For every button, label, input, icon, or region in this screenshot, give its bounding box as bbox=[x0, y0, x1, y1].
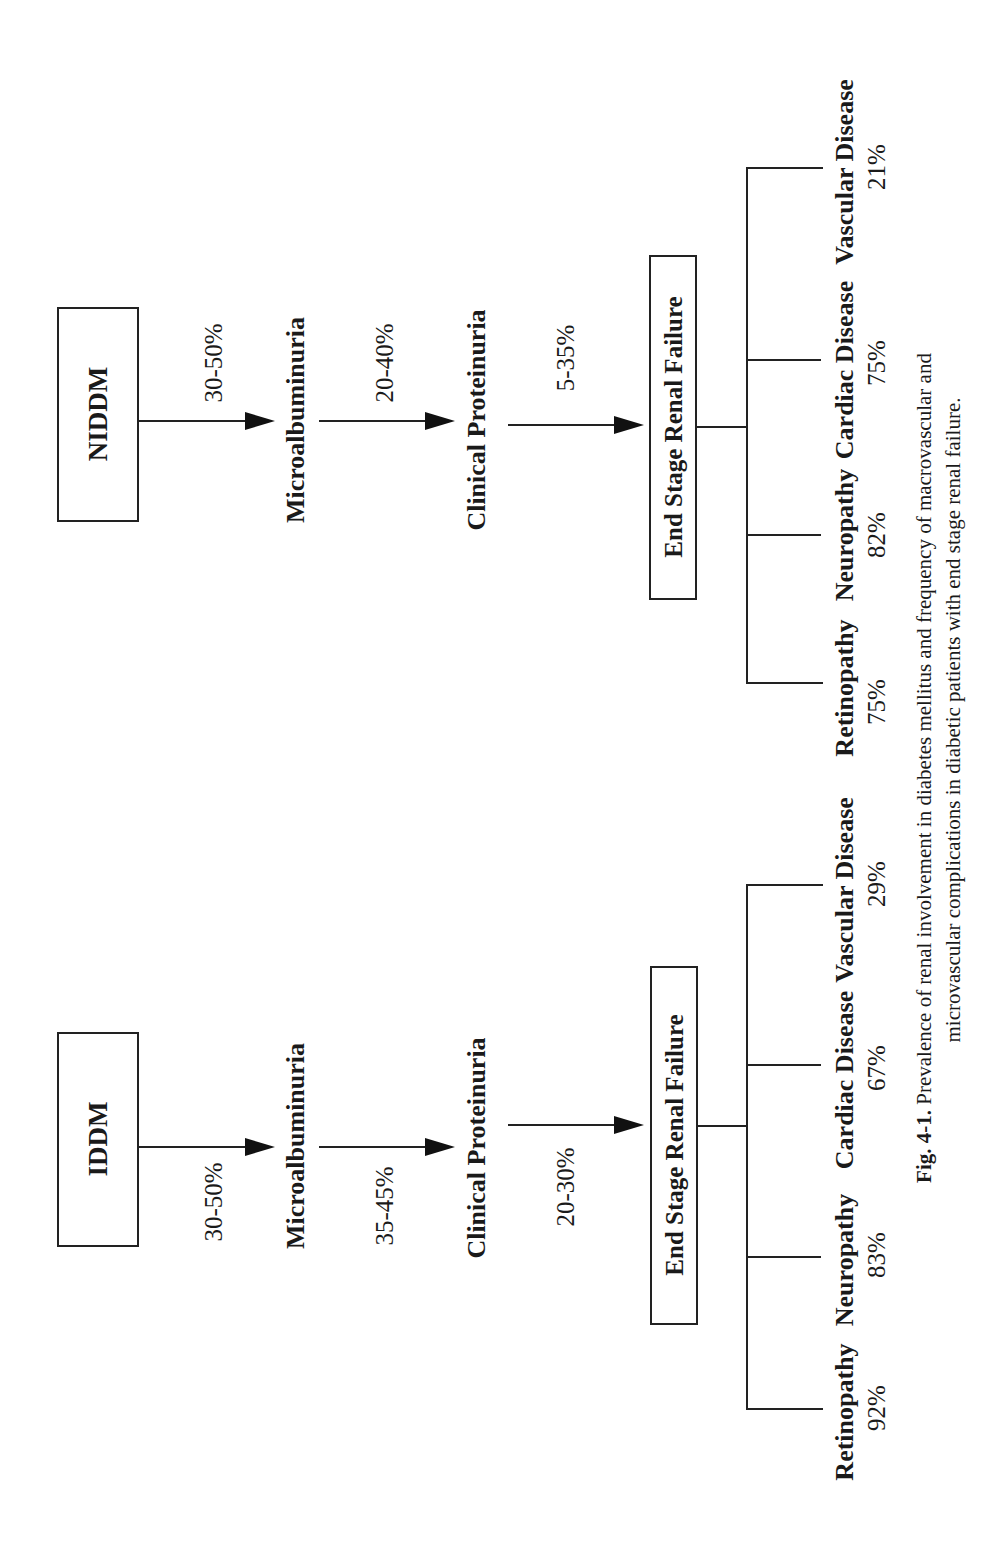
niddm-stage1-label: Microalbuminuria bbox=[283, 317, 309, 523]
iddm-complication-value: 92% bbox=[864, 1385, 889, 1431]
niddm-complication-name: Vascular Disease bbox=[832, 79, 858, 265]
iddm-esrf-label: End Stage Renal Failure bbox=[662, 1014, 687, 1275]
niddm-arrowhead-2-icon bbox=[425, 412, 455, 430]
iddm-complication-value: 67% bbox=[864, 1045, 889, 1091]
niddm-esrf-label: End Stage Renal Failure bbox=[661, 296, 686, 557]
niddm-branch-stem bbox=[697, 426, 748, 428]
niddm-step3-percent: 5-35% bbox=[553, 325, 578, 392]
iddm-complication-name: Cardiac Disease bbox=[832, 991, 858, 1169]
iddm-stage2-label: Clinical Proteinuria bbox=[464, 1037, 490, 1258]
figure-caption-text-2: microvascular complications in diabetic … bbox=[941, 398, 965, 1043]
niddm-arrow-2 bbox=[319, 420, 429, 422]
iddm-stage1-label: Microalbuminuria bbox=[283, 1043, 309, 1249]
iddm-complication-value: 83% bbox=[864, 1232, 889, 1278]
iddm-arrowhead-1-icon bbox=[245, 1138, 275, 1156]
niddm-arrow-1 bbox=[139, 420, 249, 422]
niddm-complication-value: 75% bbox=[864, 679, 889, 725]
niddm-branch-vascular bbox=[746, 167, 823, 169]
figure-caption-line2: microvascular complications in diabetic … bbox=[943, 398, 964, 1043]
niddm-branch-retinopathy bbox=[746, 682, 823, 684]
niddm-complication-name: Neuropathy bbox=[832, 469, 858, 601]
niddm-complication-value: 75% bbox=[864, 340, 889, 386]
figure-caption-line1: Fig. 4-1. Prevalence of renal involvemen… bbox=[914, 353, 935, 1183]
figure-caption-label: Fig. 4-1. bbox=[912, 1110, 936, 1183]
niddm-stage2-label: Clinical Proteinuria bbox=[464, 309, 490, 530]
iddm-step3-percent: 20-30% bbox=[553, 1147, 578, 1226]
niddm-branch-cardiac bbox=[746, 359, 821, 361]
niddm-step1-percent: 30-50% bbox=[201, 323, 226, 402]
iddm-arrow-1 bbox=[139, 1146, 249, 1148]
niddm-complication-name: Cardiac Disease bbox=[832, 281, 858, 459]
niddm-arrowhead-3-icon bbox=[614, 416, 644, 434]
iddm-complication-value: 29% bbox=[864, 861, 889, 907]
iddm-complication-name: Neuropathy bbox=[832, 1194, 858, 1326]
iddm-arrow-3 bbox=[508, 1124, 618, 1126]
iddm-branch-vascular bbox=[746, 884, 823, 886]
iddm-arrow-2 bbox=[319, 1146, 429, 1148]
niddm-arrowhead-1-icon bbox=[245, 412, 275, 430]
niddm-arrow-3 bbox=[508, 424, 618, 426]
niddm-step2-percent: 20-40% bbox=[372, 323, 397, 402]
iddm-start-label: IDDM bbox=[85, 1102, 112, 1177]
niddm-start-label: NIDDM bbox=[85, 367, 112, 462]
iddm-branch-stem bbox=[698, 1125, 748, 1127]
niddm-branch-spine bbox=[746, 167, 748, 684]
iddm-arrowhead-3-icon bbox=[614, 1116, 644, 1134]
iddm-step2-percent: 35-45% bbox=[372, 1166, 397, 1245]
niddm-complication-name: Retinopathy bbox=[832, 619, 858, 756]
iddm-step1-percent: 30-50% bbox=[201, 1162, 226, 1241]
niddm-complication-value: 82% bbox=[864, 512, 889, 558]
iddm-arrowhead-2-icon bbox=[425, 1138, 455, 1156]
iddm-complication-name: Retinopathy bbox=[832, 1343, 858, 1480]
niddm-branch-neuropathy bbox=[746, 534, 821, 536]
iddm-branch-neuropathy bbox=[746, 1256, 821, 1258]
niddm-complication-value: 21% bbox=[864, 144, 889, 190]
iddm-branch-spine bbox=[746, 884, 748, 1410]
iddm-complication-name: Vascular Disease bbox=[832, 797, 858, 983]
iddm-branch-retinopathy bbox=[746, 1408, 823, 1410]
figure-caption-text: Prevalence of renal involvement in diabe… bbox=[912, 353, 936, 1105]
iddm-branch-cardiac bbox=[746, 1064, 821, 1066]
